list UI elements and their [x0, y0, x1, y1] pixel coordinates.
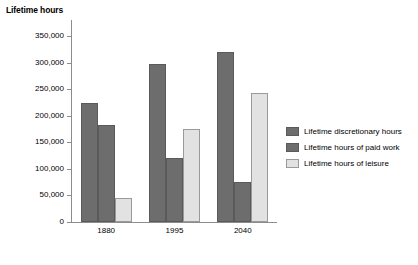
chart-legend: Lifetime discretionary hoursLifetime hou… — [286, 124, 416, 172]
y-tick-label: 0 — [8, 218, 64, 226]
x-tick-label: 1995 — [155, 226, 195, 235]
bar — [98, 125, 115, 222]
bar — [251, 93, 268, 222]
y-tick-label: 350,000 — [8, 32, 64, 40]
y-tick-mark — [67, 142, 72, 143]
y-axis-tick-labels: 350,000300,000250,000200,000150,000100,0… — [4, 0, 64, 265]
legend-item-label: Lifetime hours of leisure — [304, 159, 389, 168]
y-tick-mark — [67, 63, 72, 64]
x-tick-label: 1880 — [86, 226, 126, 235]
bar — [217, 52, 234, 222]
y-tick-label: 200,000 — [8, 112, 64, 120]
y-tick-mark — [67, 169, 72, 170]
legend-item: Lifetime hours of paid work — [286, 140, 416, 154]
y-tick-mark — [67, 116, 72, 117]
legend-item: Lifetime hours of leisure — [286, 156, 416, 170]
y-tick-label: 50,000 — [8, 191, 64, 199]
legend-item: Lifetime discretionary hours — [286, 124, 416, 138]
bar — [81, 103, 98, 222]
bar — [234, 182, 251, 222]
y-tick-mark — [67, 222, 72, 223]
bar — [166, 158, 183, 222]
y-tick-mark — [67, 89, 72, 90]
y-tick-label: 100,000 — [8, 165, 64, 173]
legend-swatch-icon — [286, 143, 299, 152]
legend-item-label: Lifetime hours of paid work — [304, 143, 400, 152]
legend-item-label: Lifetime discretionary hours — [304, 127, 402, 136]
y-tick-mark — [67, 195, 72, 196]
bar — [149, 64, 166, 222]
x-axis-line — [71, 222, 277, 223]
y-tick-mark — [67, 36, 72, 37]
legend-swatch-icon — [286, 127, 299, 136]
bar-chart: Lifetime hours 350,000300,000250,000200,… — [0, 0, 418, 265]
bar — [115, 198, 132, 222]
y-tick-label: 300,000 — [8, 59, 64, 67]
bar — [183, 129, 200, 222]
y-tick-label: 250,000 — [8, 85, 64, 93]
x-tick-label: 2040 — [223, 226, 263, 235]
y-axis-line — [71, 20, 72, 222]
y-tick-label: 150,000 — [8, 138, 64, 146]
legend-swatch-icon — [286, 159, 299, 168]
